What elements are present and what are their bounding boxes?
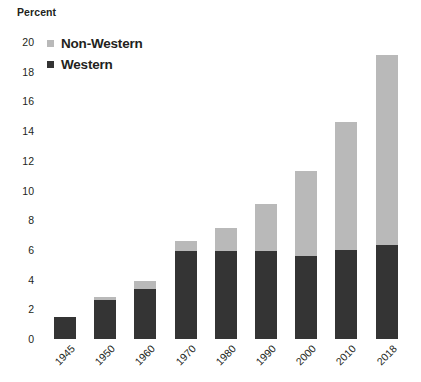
bar-1970[interactable]: 1970 [175, 241, 197, 339]
y-axis-tick-label: 16 [12, 95, 34, 107]
bar-segment-non-western[interactable] [335, 122, 357, 250]
y-axis-tick-label: 4 [12, 274, 34, 286]
x-axis-tick-label: 1950 [92, 342, 117, 367]
bar-2000[interactable]: 2000 [295, 171, 317, 339]
stacked-bar-chart: Percent Non-WesternWestern 0246810121416… [0, 0, 421, 382]
bar-segment-non-western[interactable] [295, 171, 317, 256]
bar-segment-western[interactable] [134, 289, 156, 339]
bar-segment-western[interactable] [376, 245, 398, 339]
bar-1980[interactable]: 1980 [215, 228, 237, 339]
x-axis-tick-label: 2000 [293, 342, 318, 367]
x-axis-tick-label: 2010 [334, 342, 359, 367]
y-axis-tick-label: 12 [12, 155, 34, 167]
bar-segment-western[interactable] [215, 251, 237, 339]
y-axis-tick-label: 2 [12, 303, 34, 315]
bar-1950[interactable]: 1950 [94, 297, 116, 339]
bar-segment-non-western[interactable] [255, 204, 277, 252]
x-axis-tick-label: 1970 [173, 342, 198, 367]
bar-segment-western[interactable] [175, 251, 197, 339]
bar-segment-western[interactable] [335, 250, 357, 339]
bar-segment-western[interactable] [94, 300, 116, 339]
x-axis-tick-label: 1945 [52, 342, 77, 367]
x-axis-tick-label: 1980 [213, 342, 238, 367]
bar-segment-western[interactable] [255, 251, 277, 339]
bar-1990[interactable]: 1990 [255, 204, 277, 339]
x-axis-tick-label: 1990 [253, 342, 278, 367]
y-axis-tick-label: 10 [12, 185, 34, 197]
x-axis-tick-label: 1960 [133, 342, 158, 367]
y-axis-tick-label: 14 [12, 125, 34, 137]
y-axis-tick-label: 18 [12, 66, 34, 78]
bar-segment-western[interactable] [54, 317, 76, 339]
plot-area: 0246810121416182019451950196019701980199… [41, 42, 418, 339]
y-axis-tick-label: 20 [12, 36, 34, 48]
bar-1945[interactable]: 1945 [54, 317, 76, 339]
y-axis-tick-label: 0 [12, 333, 34, 345]
bar-1960[interactable]: 1960 [134, 281, 156, 339]
bar-2010[interactable]: 2010 [335, 122, 357, 339]
y-axis-title: Percent [17, 6, 56, 18]
x-axis-tick-label: 2018 [374, 342, 399, 367]
bar-segment-non-western[interactable] [175, 241, 197, 251]
y-axis-tick-label: 8 [12, 214, 34, 226]
bar-segment-non-western[interactable] [134, 281, 156, 288]
bar-2018[interactable]: 2018 [376, 55, 398, 339]
bar-segment-western[interactable] [295, 256, 317, 339]
y-axis-tick-label: 6 [12, 244, 34, 256]
bar-segment-non-western[interactable] [376, 55, 398, 245]
bar-segment-non-western[interactable] [215, 228, 237, 252]
